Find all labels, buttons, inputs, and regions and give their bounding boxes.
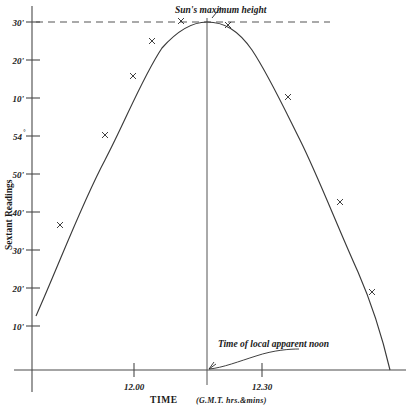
y-tick-label-54deg: 54 — [13, 132, 23, 142]
data-point-marker — [337, 199, 343, 205]
data-point-markers — [57, 18, 375, 295]
y-tick-label: 50' — [12, 170, 24, 180]
y-axis-ticks — [26, 22, 40, 326]
x-axis-title: TIME — [150, 395, 178, 405]
sun-altitude-curve — [36, 22, 390, 370]
y-tick-label-degree-sign: ° — [23, 129, 26, 135]
data-point-marker — [57, 222, 63, 228]
annotation-leader-line-noon — [209, 349, 299, 369]
annotation-local-apparent-noon: Time of local apparent noon — [218, 339, 329, 349]
data-point-marker — [285, 94, 291, 100]
x-axis-title-units: (G.M.T. hrs.&mins) — [196, 396, 267, 405]
y-tick-label: 20' — [11, 56, 24, 66]
x-tick-label: 12.00 — [124, 382, 145, 392]
chart-container: 30' 20' 10' 54 ° 50' 40' 30' 20' 10' Sex… — [0, 0, 416, 407]
sextant-readings-chart: 30' 20' 10' 54 ° 50' 40' 30' 20' 10' Sex… — [0, 0, 416, 407]
y-tick-label: 20' — [11, 284, 24, 294]
data-point-marker — [178, 18, 184, 24]
annotation-sun-max-height: Sun's maximum height — [175, 5, 267, 15]
y-tick-label: 10' — [12, 94, 24, 104]
x-tick-label: 12.30 — [252, 382, 273, 392]
data-point-marker — [369, 289, 375, 295]
y-tick-label: 10' — [12, 322, 24, 332]
data-point-marker — [130, 73, 136, 79]
y-tick-label: 30' — [11, 18, 24, 28]
data-point-marker — [149, 38, 155, 44]
data-point-marker — [102, 132, 108, 138]
y-axis-tick-labels: 30' 20' 10' 54 ° 50' 40' 30' 20' 10' — [11, 18, 26, 332]
y-axis-title: Sextant Readings — [4, 179, 14, 250]
